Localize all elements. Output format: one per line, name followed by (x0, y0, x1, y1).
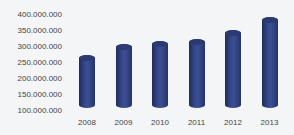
y-tick-label: 400.000.000 (0, 10, 62, 20)
y-tick-label: 250.000.000 (0, 58, 62, 68)
bar-cap (189, 39, 205, 45)
y-tick-label: 150.000.000 (0, 90, 62, 100)
bar-cap (262, 17, 278, 23)
bar-cap (225, 30, 241, 36)
bar-2011 (189, 39, 205, 108)
x-tick-label: 2010 (145, 118, 175, 128)
x-tick-label: 2008 (72, 118, 102, 128)
bar-cap (116, 44, 132, 50)
y-tick-label: 100.000.000 (0, 106, 62, 116)
y-tick-label: 200.000.000 (0, 74, 62, 84)
bar-2009 (116, 44, 132, 108)
bar-chart: 400.000.000350.000.000300.000.000250.000… (0, 0, 294, 135)
x-tick-label: 2009 (109, 118, 139, 128)
bar-cap (79, 55, 95, 61)
x-tick-label: 2013 (255, 118, 285, 128)
bar-2010 (152, 41, 168, 108)
x-tick-label: 2012 (218, 118, 248, 128)
y-tick-label: 350.000.000 (0, 26, 62, 36)
bar-2013 (262, 17, 278, 108)
y-tick-label: 300.000.000 (0, 42, 62, 52)
x-tick-label: 2011 (182, 118, 212, 128)
bar-2012 (225, 30, 241, 108)
bar-cap (152, 41, 168, 47)
bar-2008 (79, 55, 95, 108)
